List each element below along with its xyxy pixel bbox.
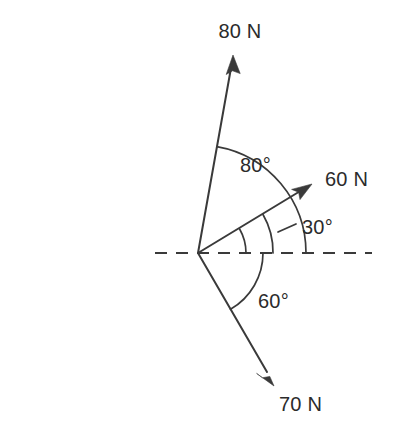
force-vector-80n-shaft: [198, 68, 231, 253]
force-label-60n: 60 N: [325, 168, 368, 190]
angle-arc-30deg-inner-path: [240, 229, 246, 253]
force-vector-70n: [198, 253, 274, 386]
force-vector-80n-arrowhead: [226, 55, 240, 75]
angle-label-80deg: 80°: [240, 154, 271, 176]
force-vector-70n-shaft: [198, 253, 267, 372]
angle-arc-30deg: [240, 215, 296, 254]
force-label-80n: 80 N: [218, 20, 261, 42]
force-vector-80n: [198, 55, 240, 253]
force-label-70n: 70 N: [279, 393, 322, 415]
angle-label-30deg-leader: [278, 224, 296, 232]
force-vector-60n-arrowhead: [292, 184, 312, 200]
force-diagram-container: 80 N 60 N 70 N 80° 30° 60°: [0, 0, 395, 429]
force-vector-70n-arrowhead: [257, 373, 274, 386]
force-vector-60n: [198, 184, 312, 253]
angle-label-60deg: 60°: [258, 290, 289, 312]
force-vector-60n-shaft: [198, 190, 302, 253]
angle-arc-30deg-outer-path: [263, 215, 273, 254]
angle-label-30deg: 30°: [302, 216, 333, 238]
force-diagram-canvas: 80 N 60 N 70 N 80° 30° 60°: [0, 0, 395, 429]
